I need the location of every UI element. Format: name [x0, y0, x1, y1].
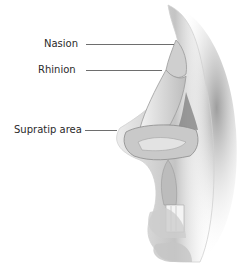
label-nasion: Nasion: [44, 38, 78, 50]
label-rhinion: Rhinion: [38, 64, 76, 76]
leader-line-supratip: [85, 130, 117, 131]
nose-anatomy-diagram: Nasion Rhinion Supratip area: [0, 0, 244, 266]
label-supratip-area: Supratip area: [14, 124, 82, 136]
leader-line-nasion: [86, 44, 174, 45]
leader-line-rhinion: [86, 70, 162, 71]
